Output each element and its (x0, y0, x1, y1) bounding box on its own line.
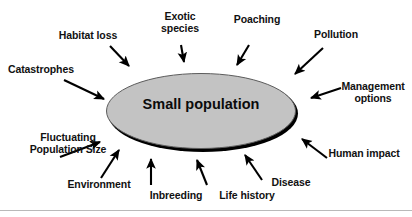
label-catastrophes: Catastrophes (8, 64, 118, 76)
label-management-options-line2: options (334, 93, 412, 105)
label-life-history: Life history (210, 190, 284, 202)
arrow-poaching (237, 45, 249, 65)
label-habitat-loss: Habitat loss (38, 30, 138, 42)
label-human-impact: Human impact (318, 148, 410, 160)
arrow-habitat-loss (110, 46, 129, 66)
label-pollution: Pollution (292, 29, 380, 41)
label-exotic-species-line1: Exotic (140, 11, 220, 23)
diagram-canvas: Small population Habitat loss Exotic spe… (0, 0, 412, 217)
label-disease: Disease (260, 177, 322, 189)
label-inbreeding: Inbreeding (140, 190, 212, 202)
arrow-life-history (197, 160, 207, 185)
label-exotic-species-line2: species (140, 23, 220, 35)
label-management-options-line1: Management (334, 81, 412, 93)
arrow-pollution (295, 48, 323, 74)
label-poaching: Poaching (212, 14, 302, 26)
label-environment: Environment (55, 179, 143, 191)
arrow-catastrophes (64, 80, 104, 99)
center-ellipse-label: Small population (105, 96, 297, 112)
label-fluctuating-population-size-line1: Fluctuating (18, 132, 118, 144)
bottom-divider (0, 210, 412, 211)
label-fluctuating-population-size-line2: Population Size (18, 144, 118, 156)
arrow-exotic-species (181, 45, 184, 62)
